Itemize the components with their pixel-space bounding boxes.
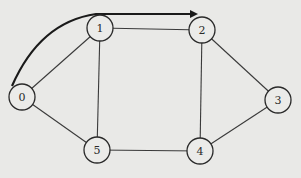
edge-1-5 xyxy=(97,28,100,150)
node-label: 0 xyxy=(19,91,26,104)
edge-1-2 xyxy=(100,28,202,30)
edge-5-4 xyxy=(97,150,200,151)
node-label: 4 xyxy=(197,145,204,158)
node-1: 1 xyxy=(87,15,113,41)
node-label: 5 xyxy=(94,144,101,157)
node-0: 0 xyxy=(9,84,35,110)
edge-0-5 xyxy=(22,97,97,150)
node-label: 1 xyxy=(97,22,104,35)
edge-2-4 xyxy=(200,30,202,151)
node-2: 2 xyxy=(189,17,215,43)
edge-0-1 xyxy=(22,28,100,97)
node-label: 3 xyxy=(275,94,282,107)
node-4: 4 xyxy=(187,138,213,164)
edges-layer xyxy=(22,28,278,151)
node-3: 3 xyxy=(265,87,291,113)
graph-svg: 012345 xyxy=(0,0,301,178)
node-5: 5 xyxy=(84,137,110,163)
edge-2-3 xyxy=(202,30,278,100)
node-label: 2 xyxy=(199,24,206,37)
nodes-layer: 012345 xyxy=(9,15,291,164)
edge-3-4 xyxy=(200,100,278,151)
graph-diagram: 012345 xyxy=(0,0,301,178)
